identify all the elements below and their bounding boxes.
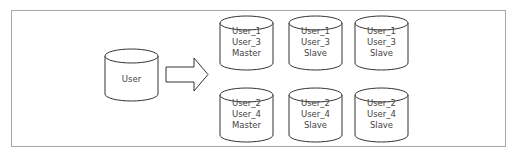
shard-label-2: User_1 User_3 Slave	[289, 26, 342, 59]
shard-role: Slave	[289, 48, 342, 59]
shard-label-6: User_2 User_4 Slave	[355, 98, 408, 131]
shard-line: User_2	[220, 98, 273, 109]
source-label: User	[105, 74, 158, 85]
shard-role: Slave	[289, 120, 342, 131]
shard-role: Slave	[355, 48, 408, 59]
shard-role: Master	[220, 48, 273, 59]
shard-line: User_4	[289, 109, 342, 120]
shard-role: Slave	[355, 120, 408, 131]
shard-label-5: User_2 User_4 Slave	[289, 98, 342, 131]
shard-label-1: User_1 User_3 Master	[220, 26, 273, 59]
shard-line: User_1	[355, 26, 408, 37]
shard-role: Master	[220, 120, 273, 131]
shard-line: User_3	[220, 37, 273, 48]
shard-label-3: User_1 User_3 Slave	[355, 26, 408, 59]
shard-line: User_2	[289, 98, 342, 109]
shard-line: User_4	[355, 109, 408, 120]
shard-line: User_1	[289, 26, 342, 37]
arrow-right-icon	[166, 58, 208, 91]
shard-line: User_3	[289, 37, 342, 48]
shard-line: User_1	[220, 26, 273, 37]
shard-line: User_4	[220, 109, 273, 120]
shard-line: User_3	[355, 37, 408, 48]
shard-line: User_2	[355, 98, 408, 109]
shard-label-4: User_2 User_4 Master	[220, 98, 273, 131]
diagram-shapes	[0, 0, 516, 158]
